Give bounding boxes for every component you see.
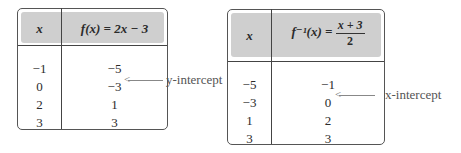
header-fx: f(x) = 2x − 3: [62, 21, 167, 37]
table-cell: 3: [272, 132, 384, 145]
table-cell: 1: [228, 114, 271, 127]
header-rule: [228, 61, 384, 62]
header-x: x: [18, 21, 61, 37]
function-table: x f(x) = 2x − 3 −1 −5 0 −3 2 1 3 3: [17, 8, 168, 130]
arrow-line: [128, 80, 163, 81]
numerator: x + 3: [336, 18, 365, 34]
table-cell: 1: [62, 98, 167, 111]
table-cell: −1: [18, 62, 61, 75]
finv-prefix: f⁻¹(x) =: [292, 24, 333, 39]
table-cell: 3: [18, 116, 61, 129]
inverse-function-table: x f⁻¹(x) = x + 3 2 −5 −1 −3 0 1 2 3 3: [227, 9, 385, 145]
header-rule: [18, 45, 167, 46]
denominator: 2: [336, 34, 365, 49]
y-intercept-label: y-intercept: [166, 72, 222, 88]
header-x: x: [228, 28, 271, 44]
header-finv: f⁻¹(x) = x + 3 2: [272, 18, 384, 49]
table-cell: 2: [272, 114, 384, 127]
x-intercept-label: x-intercept: [385, 87, 441, 103]
table-cell: −3: [228, 96, 271, 109]
table-cell: 0: [272, 96, 384, 109]
table-cell: 3: [62, 116, 167, 129]
table-cell: −3: [62, 80, 167, 93]
table-cell: 2: [18, 98, 61, 111]
fraction: x + 3 2: [336, 18, 365, 49]
table-cell: −5: [228, 78, 271, 91]
table-cell: 0: [18, 80, 61, 93]
table-cell: 3: [228, 132, 271, 145]
arrow-line: [339, 95, 375, 96]
table-cell: −1: [272, 78, 384, 91]
table-cell: −5: [62, 62, 167, 75]
